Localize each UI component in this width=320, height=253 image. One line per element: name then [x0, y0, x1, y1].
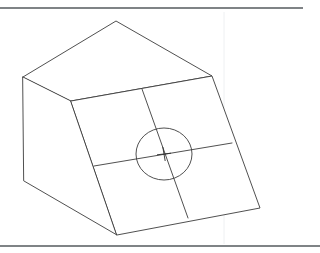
drawing-svg [0, 0, 320, 253]
technical-drawing-canvas [0, 0, 320, 253]
